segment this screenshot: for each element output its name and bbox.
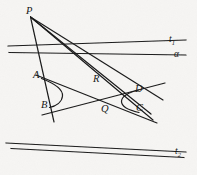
tangent-line-t1: [8, 40, 186, 46]
label-point-R: R: [93, 74, 99, 85]
tangent-line-t2: [6, 143, 186, 152]
label-point-P: P: [26, 6, 32, 17]
asymptote-second: [11, 149, 184, 158]
label-line-t1-subscript: 1: [172, 39, 175, 46]
label-line-t1: t1: [169, 35, 175, 46]
diagram-canvas: [0, 0, 197, 175]
label-line-t2-subscript: 2: [178, 151, 181, 158]
label-point-C: C: [136, 103, 143, 114]
label-point-Q: Q: [101, 104, 109, 115]
asymptote-alpha: [9, 53, 186, 56]
line-from-P-to-D: [31, 17, 164, 100]
geometry-figure: P A B R Q D C t1 α t2: [0, 0, 197, 175]
label-point-A: A: [33, 70, 39, 81]
label-point-D: D: [135, 84, 143, 95]
label-asymptote-alpha: α: [174, 50, 179, 60]
label-line-t2: t2: [175, 147, 181, 158]
label-point-B: B: [41, 100, 47, 111]
